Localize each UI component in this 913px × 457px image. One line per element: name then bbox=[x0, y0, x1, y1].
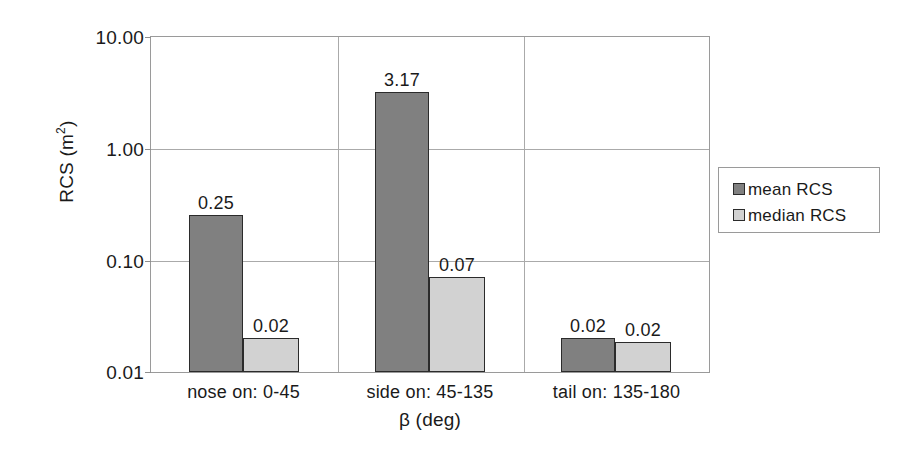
bar-value-median-tail-on: 0.02 bbox=[615, 321, 671, 339]
bar-value-median-side-on: 0.07 bbox=[429, 256, 485, 274]
tick-mark-1 bbox=[145, 149, 151, 150]
legend-swatch-median-icon bbox=[733, 209, 745, 221]
plot-area: 0.25 0.02 3.17 0.07 0.02 0.02 bbox=[150, 36, 710, 373]
tick-mark-0-01 bbox=[145, 372, 151, 373]
legend-label-mean: mean RCS bbox=[748, 181, 833, 198]
rcs-bar-chart: RCS (m2) 10.00 1.00 0.10 0.01 0.25 0.02 … bbox=[0, 0, 913, 457]
bar-value-mean-tail-on: 0.02 bbox=[561, 317, 615, 335]
category-label-nose-on: nose on: 0-45 bbox=[150, 382, 337, 403]
x-axis-title: β (deg) bbox=[150, 409, 710, 431]
category-separator-1 bbox=[338, 37, 339, 372]
gridline-1-00 bbox=[151, 149, 709, 150]
bar-value-mean-nose-on: 0.25 bbox=[189, 194, 243, 212]
tick-mark-10 bbox=[145, 37, 151, 38]
y-tick-label-0-10: 0.10 bbox=[52, 252, 144, 271]
bar-median-nose-on[interactable] bbox=[243, 338, 299, 372]
bar-mean-tail-on[interactable] bbox=[561, 338, 615, 372]
y-axis-tick-labels: 10.00 1.00 0.10 0.01 bbox=[48, 0, 144, 457]
bar-value-median-nose-on: 0.02 bbox=[243, 317, 299, 335]
category-label-tail-on: tail on: 135-180 bbox=[523, 382, 710, 403]
legend-swatch-mean-icon bbox=[733, 183, 745, 195]
bar-value-mean-side-on: 3.17 bbox=[375, 71, 429, 89]
category-label-side-on: side on: 45-135 bbox=[337, 382, 523, 403]
legend: mean RCS median RCS bbox=[718, 167, 880, 233]
y-tick-label-1: 1.00 bbox=[52, 140, 144, 159]
bar-mean-nose-on[interactable] bbox=[189, 215, 243, 372]
bar-mean-side-on[interactable] bbox=[375, 92, 429, 372]
y-tick-label-10: 10.00 bbox=[52, 28, 144, 47]
bar-median-side-on[interactable] bbox=[429, 277, 485, 372]
legend-label-median: median RCS bbox=[748, 207, 846, 224]
legend-item-median[interactable]: median RCS bbox=[733, 203, 879, 227]
tick-mark-0-10 bbox=[145, 261, 151, 262]
category-separator-2 bbox=[524, 37, 525, 372]
y-tick-label-0-01: 0.01 bbox=[52, 363, 144, 382]
bar-median-tail-on[interactable] bbox=[615, 342, 671, 372]
legend-item-mean[interactable]: mean RCS bbox=[733, 177, 879, 201]
